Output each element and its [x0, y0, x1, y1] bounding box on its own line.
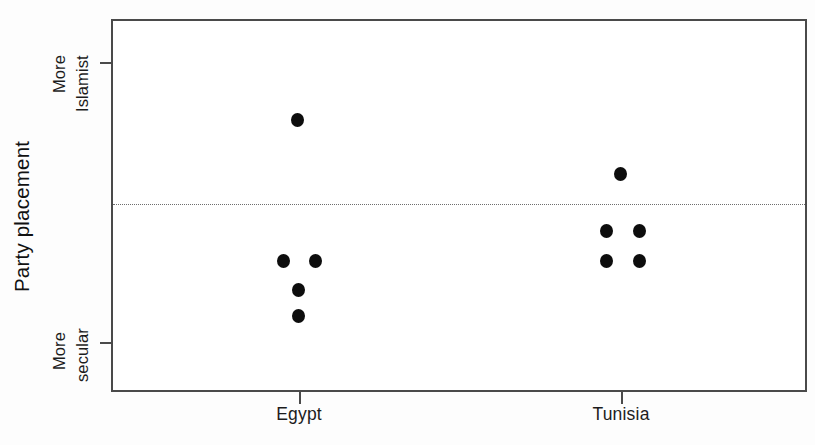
y-axis-tick-bottom	[100, 342, 111, 344]
chart-figure: Party placement More Islamist More secul…	[0, 0, 815, 445]
data-point	[600, 224, 613, 238]
y-tick-label-more-secular-line2: secular	[73, 328, 92, 382]
data-point	[633, 254, 646, 268]
data-point	[292, 309, 305, 323]
data-point	[309, 254, 322, 268]
data-point	[600, 254, 613, 268]
x-axis-label-egypt: Egypt	[276, 404, 322, 425]
data-point	[291, 113, 304, 127]
y-tick-label-more-islamist-line1: More	[50, 55, 69, 93]
x-axis-tick-tunisia	[621, 392, 623, 404]
y-axis-tick-top	[100, 62, 111, 64]
plot-area	[111, 19, 807, 392]
y-tick-label-more-secular-line1: More	[50, 332, 69, 370]
data-point	[292, 283, 305, 297]
x-axis-tick-egypt	[299, 392, 301, 404]
data-point	[614, 167, 627, 181]
neutral-reference-line	[113, 204, 805, 205]
y-tick-label-more-islamist-line2: Islamist	[73, 55, 92, 112]
x-axis-label-tunisia: Tunisia	[592, 404, 649, 425]
data-point	[277, 254, 290, 268]
data-point	[633, 224, 646, 238]
y-axis-title: Party placement	[10, 141, 34, 292]
